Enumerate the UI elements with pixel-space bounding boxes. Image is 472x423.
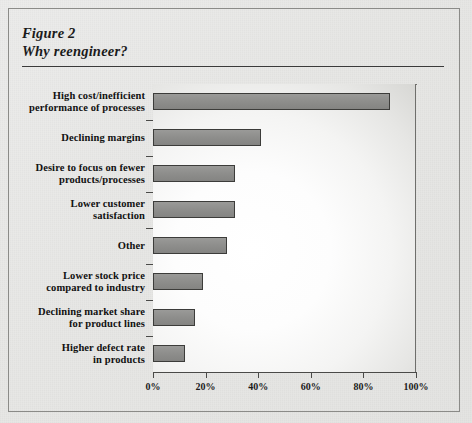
category-label: Lower customersatisfaction	[18, 192, 145, 228]
category-label-text: Other	[118, 240, 145, 252]
bar-row	[153, 84, 415, 120]
bar-row	[153, 156, 415, 192]
bar-row	[153, 336, 415, 372]
bar	[153, 345, 185, 362]
category-label-text: Lower customersatisfaction	[71, 198, 145, 222]
category-label-column: High cost/inefficientperformance of proc…	[18, 84, 145, 372]
title-divider	[22, 66, 444, 67]
bar	[153, 165, 235, 182]
y-axis-tick	[146, 192, 153, 193]
category-label-text: Higher defect ratein products	[62, 342, 145, 366]
x-axis-tick-label: 40%	[248, 381, 268, 392]
figure-number: Figure 2	[22, 24, 440, 42]
x-axis-tick	[311, 373, 312, 378]
x-axis-tick	[153, 373, 154, 378]
figure-title-block: Figure 2 Why reengineer?	[22, 24, 440, 60]
x-axis-tick-label: 60%	[301, 381, 321, 392]
category-label-text: Declining margins	[61, 132, 145, 144]
plot-area	[153, 84, 416, 372]
y-axis-tick	[146, 156, 153, 157]
y-axis-tick	[146, 120, 153, 121]
category-label-text: Lower stock pricecompared to industry	[46, 270, 145, 294]
bar	[153, 309, 195, 326]
x-axis-tick	[363, 373, 364, 378]
figure-title: Why reengineer?	[22, 42, 440, 60]
bar-row	[153, 120, 415, 156]
category-label: High cost/inefficientperformance of proc…	[18, 84, 145, 120]
category-label-text: Declining market sharefor product lines	[38, 306, 145, 330]
x-axis-tick-label: 20%	[196, 381, 216, 392]
category-label-text: Desire to focus on fewerproducts/process…	[35, 162, 145, 186]
y-axis-tick	[146, 264, 153, 265]
x-axis-tick-label: 0%	[146, 381, 161, 392]
x-axis-tick-label: 80%	[353, 381, 373, 392]
bar-row	[153, 300, 415, 336]
y-axis-tick	[146, 336, 153, 337]
x-axis-tick	[416, 373, 417, 378]
figure-container: Figure 2 Why reengineer? High cost/ineff…	[0, 0, 472, 423]
category-label-text: High cost/inefficientperformance of proc…	[29, 90, 145, 114]
bar	[153, 273, 203, 290]
y-axis-tick	[146, 300, 153, 301]
bar-row	[153, 192, 415, 228]
bar-row	[153, 264, 415, 300]
bar-row	[153, 228, 415, 264]
bar	[153, 237, 227, 254]
category-label: Other	[18, 228, 145, 264]
y-axis-tick	[146, 228, 153, 229]
category-label: Declining market sharefor product lines	[18, 300, 145, 336]
x-axis-tick	[258, 373, 259, 378]
category-label: Lower stock pricecompared to industry	[18, 264, 145, 300]
category-label: Declining margins	[18, 120, 145, 156]
x-axis-tick-label: 100%	[404, 381, 429, 392]
bar	[153, 129, 261, 146]
bar	[153, 93, 390, 110]
x-axis-tick	[206, 373, 207, 378]
category-label: Higher defect ratein products	[18, 336, 145, 372]
category-label: Desire to focus on fewerproducts/process…	[18, 156, 145, 192]
bar	[153, 201, 235, 218]
x-axis-line	[153, 372, 417, 373]
